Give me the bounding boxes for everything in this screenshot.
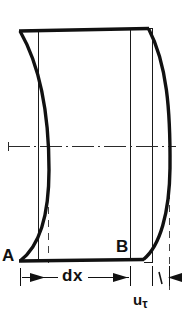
utau-leader-tick: [159, 272, 162, 284]
wall-shear-velocity-label: uτ: [133, 292, 148, 310]
figure-canvas: [0, 0, 183, 316]
wall-shear-velocity-symbol: u: [133, 291, 142, 308]
inlet-station-label: A: [2, 247, 14, 264]
wall-shear-velocity-subscript: τ: [142, 297, 147, 311]
boundary-layer-figure: A B dx uτ: [0, 0, 183, 316]
control-volume-outline: [19, 29, 170, 262]
outlet-velocity-profile-B: [144, 29, 171, 260]
outlet-station-label: B: [116, 238, 128, 255]
reference-lines: [38, 28, 153, 263]
utau-dimension: [153, 266, 183, 286]
length-dimension-label: dx: [62, 267, 83, 284]
arrow-right-icon-dx-right: [113, 273, 128, 282]
centerline-group: [8, 142, 176, 151]
arrow-right-icon-dx-left: [30, 273, 45, 282]
control-volume-bottom-wall: [19, 260, 144, 262]
